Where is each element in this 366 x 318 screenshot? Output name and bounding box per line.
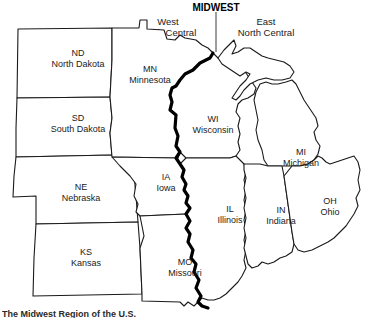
- state-name-mi: Michigan: [283, 158, 319, 168]
- state-name-il: Illinois: [217, 215, 243, 225]
- state-name-ne: Nebraska: [62, 193, 101, 203]
- state-abbr-il: IL: [226, 204, 234, 214]
- state-name-sd: South Dakota: [51, 124, 106, 134]
- state-abbr-mi: MI: [296, 147, 306, 157]
- state-name-ks: Kansas: [71, 258, 102, 268]
- state-name-mo: Missouri: [168, 268, 202, 278]
- state-abbr-mn: MN: [143, 64, 157, 74]
- state-name-oh: Ohio: [320, 207, 339, 217]
- state-abbr-ia: IA: [162, 172, 171, 182]
- state-name-in: Indiana: [266, 216, 296, 226]
- state-name-wi: Wisconsin: [192, 125, 233, 135]
- state-shape-michigan-lower-peninsula: [254, 80, 320, 166]
- state-abbr-wi: WI: [208, 114, 219, 124]
- state-label-ohio: OH Ohio: [320, 196, 339, 217]
- state-abbr-in: IN: [277, 205, 286, 215]
- map-region-title: MIDWEST: [192, 2, 239, 13]
- state-shape-ohio: [284, 156, 360, 252]
- division-label-east-line1: East: [256, 16, 275, 27]
- state-abbr-ne: NE: [75, 182, 88, 192]
- state-name-ia: Iowa: [156, 183, 175, 193]
- map-svg-canvas: MIDWEST West North Central East North Ce…: [0, 0, 366, 318]
- state-name-mn: Minnesota: [129, 75, 171, 85]
- map-caption: The Midwest Region of the U.S.: [2, 309, 136, 318]
- state-abbr-oh: OH: [323, 196, 337, 206]
- state-abbr-sd: SD: [72, 113, 85, 123]
- division-label-west-line1: West: [157, 16, 179, 27]
- division-label-east-line2: North Central: [238, 27, 295, 38]
- midwest-region-map: MIDWEST West North Central East North Ce…: [0, 0, 366, 318]
- state-abbr-ks: KS: [80, 247, 92, 257]
- state-abbr-mo: MO: [178, 257, 193, 267]
- state-name-nd: North Dakota: [51, 59, 104, 69]
- state-abbr-nd: ND: [72, 48, 85, 58]
